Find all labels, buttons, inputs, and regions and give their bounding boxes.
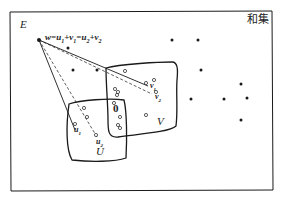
- space-e-label: E: [20, 19, 27, 30]
- dashed-w-to-u2: [39, 40, 97, 137]
- subspace-u-label: U: [96, 146, 104, 157]
- point-label-v2: v2: [155, 93, 161, 103]
- diagram-title: 和集: [247, 14, 269, 25]
- point-w: [37, 38, 41, 42]
- line-w-to-v2: [39, 40, 148, 86]
- point-label-u1: u1: [74, 126, 81, 136]
- subspace-v-label: V: [157, 116, 164, 127]
- zero-vector-label: 0: [113, 103, 119, 114]
- point-label-v1: v1: [150, 82, 156, 92]
- points-in-e: [67, 39, 249, 122]
- line-w-to-u1: [39, 40, 75, 130]
- w-equation: w=u1+v1=u2+v2: [45, 33, 102, 44]
- sum-of-subspaces-diagram: [0, 0, 289, 197]
- dashed-w-to-v1: [39, 40, 152, 94]
